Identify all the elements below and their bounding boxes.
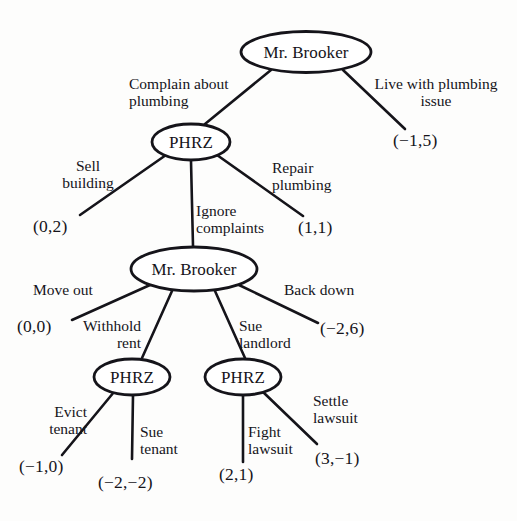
edge-label-ignore: Ignore complaints: [196, 203, 264, 236]
payoff-live-with: (−1,5): [393, 132, 438, 150]
edge-label-withhold: Withhold rent: [58, 318, 141, 351]
edge-line-ignore: [191, 161, 193, 246]
edge-label-fight: Fight lawsuit: [248, 424, 293, 457]
edge-label-settle: Settle lawsuit: [313, 393, 358, 426]
payoff-repair: (1,1): [298, 219, 333, 237]
edge-label-live-with: Live with plumbing issue: [356, 76, 516, 109]
edge-label-sue-tenant: Sue tenant: [140, 424, 178, 457]
edge-label-sue-landlord: Sue landlord: [239, 318, 291, 351]
node-brooker-mid[interactable]: Mr. Brooker: [124, 261, 264, 278]
payoff-back-down: (−2,6): [320, 320, 365, 338]
node-phrz-top[interactable]: PHRZ: [141, 134, 241, 151]
game-tree-figure: Mr. Brooker PHRZ Mr. Brooker PHRZ PHRZ C…: [0, 0, 517, 521]
payoff-move-out: (0,0): [17, 318, 52, 336]
edge-label-move-out: Move out: [33, 282, 93, 299]
edge-label-evict: Evict tenant: [10, 404, 87, 437]
payoff-fight: (2,1): [219, 466, 254, 484]
edge-label-repair: Repair plumbing: [272, 160, 331, 193]
edge-label-back-down: Back down: [284, 282, 354, 299]
node-root[interactable]: Mr. Brooker: [236, 44, 376, 61]
payoff-settle: (3,−1): [315, 450, 360, 468]
node-phrz-right[interactable]: PHRZ: [193, 369, 293, 386]
edge-line-sue-tenant: [132, 395, 133, 459]
edge-label-complain: Complain about plumbing: [129, 76, 228, 109]
edge-label-sell-building: Sell building: [43, 158, 133, 191]
payoff-sue-tenant: (−2,−2): [98, 474, 153, 492]
edge-line-withhold: [142, 291, 172, 358]
payoff-sell-building: (0,2): [33, 218, 68, 236]
payoff-evict: (−1,0): [19, 458, 64, 476]
node-phrz-left[interactable]: PHRZ: [82, 369, 182, 386]
